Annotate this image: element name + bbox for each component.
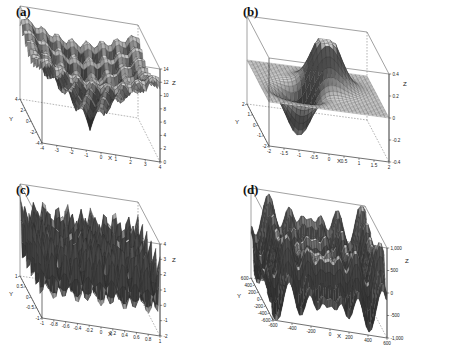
svg-text:-2: -2 (267, 149, 272, 154)
panel-d-label: (d) (243, 182, 258, 198)
svg-text:200: 200 (345, 335, 353, 340)
svg-text:1.5: 1.5 (371, 163, 378, 168)
svg-text:-0.2: -0.2 (392, 138, 400, 143)
svg-text:-1: -1 (84, 153, 89, 158)
svg-text:12: 12 (163, 80, 169, 85)
svg-text:400: 400 (244, 283, 252, 288)
svg-text:-1: -1 (35, 316, 40, 321)
svg-text:Y: Y (9, 115, 13, 122)
svg-text:Z: Z (405, 257, 409, 264)
svg-text:8: 8 (163, 107, 166, 112)
svg-text:1: 1 (163, 288, 166, 293)
svg-text:2: 2 (242, 102, 245, 107)
svg-text:0: 0 (100, 330, 103, 335)
svg-text:-4: -4 (35, 141, 40, 146)
svg-text:0: 0 (390, 291, 393, 296)
svg-text:2: 2 (388, 165, 391, 170)
svg-text:0.8: 0.8 (145, 337, 152, 342)
svg-text:X: X (108, 330, 112, 337)
svg-text:0: 0 (253, 123, 256, 128)
svg-text:-500: -500 (390, 313, 400, 318)
svg-text:0: 0 (257, 297, 260, 302)
svg-text:0: 0 (163, 160, 166, 165)
svg-text:-200: -200 (254, 304, 264, 309)
svg-text:0: 0 (329, 332, 332, 337)
svg-text:-0.5: -0.5 (26, 305, 34, 310)
svg-text:600: 600 (383, 341, 391, 346)
svg-text:-4: -4 (40, 146, 45, 151)
svg-text:1: 1 (159, 339, 162, 344)
svg-text:-0.4: -0.4 (73, 326, 81, 331)
svg-text:X: X (337, 157, 341, 164)
svg-text:-0.4: -0.4 (392, 160, 400, 165)
svg-text:1: 1 (358, 161, 361, 166)
svg-text:-400: -400 (258, 311, 268, 316)
svg-text:10: 10 (163, 93, 169, 98)
svg-text:X: X (108, 154, 112, 161)
svg-text:-600: -600 (261, 318, 271, 323)
svg-text:400: 400 (364, 338, 372, 343)
svg-text:-2: -2 (69, 150, 74, 155)
svg-text:0: 0 (163, 303, 166, 308)
svg-text:-3: -3 (55, 148, 60, 153)
svg-text:Z: Z (172, 79, 176, 86)
svg-text:3: 3 (163, 257, 166, 262)
svg-text:Y: Y (235, 118, 239, 125)
svg-text:-2: -2 (262, 144, 267, 149)
svg-text:-0.5: -0.5 (310, 155, 318, 160)
svg-text:4: 4 (159, 165, 162, 170)
svg-text:0.2: 0.2 (392, 94, 399, 99)
panel-d-plot: -600-400-2000200400600X-600-400-20002004… (227, 178, 453, 356)
panel-b-label: (b) (243, 4, 258, 20)
svg-text:0.5: 0.5 (17, 284, 24, 289)
svg-text:3: 3 (144, 162, 147, 167)
svg-text:0: 0 (26, 295, 29, 300)
svg-text:-400: -400 (287, 326, 297, 331)
svg-text:0: 0 (328, 157, 331, 162)
panel-c-plot: -1-0.8-0.6-0.4-0.200.20.40.60.81X-1-0.50… (0, 178, 226, 356)
svg-text:-1: -1 (297, 153, 302, 158)
svg-text:4: 4 (15, 97, 18, 102)
svg-text:1: 1 (15, 274, 18, 279)
svg-text:-1,000: -1,000 (390, 336, 403, 341)
panel-d: (d) -600-400-2000200400600X-600-400-2000… (227, 178, 453, 356)
svg-text:-600: -600 (268, 323, 278, 328)
panel-b: (b) -2-1.5-1-0.500.511.52X-2-1012Y-0.4-0… (227, 0, 453, 178)
svg-text:-1.5: -1.5 (280, 151, 288, 156)
svg-text:14: 14 (163, 67, 169, 72)
svg-text:0.4: 0.4 (392, 72, 399, 77)
svg-text:0.6: 0.6 (133, 335, 140, 340)
svg-text:0: 0 (100, 155, 103, 160)
panel-a: (a) -4-3-2-101234X-4-2024Y02468101214Z (0, 0, 226, 178)
svg-text:1: 1 (247, 112, 250, 117)
svg-text:1: 1 (114, 157, 117, 162)
svg-text:2: 2 (20, 108, 23, 113)
svg-text:Z: Z (403, 80, 407, 87)
svg-text:2: 2 (129, 160, 132, 165)
svg-text:X: X (337, 332, 341, 339)
svg-text:-2: -2 (163, 334, 168, 339)
svg-text:200: 200 (248, 290, 256, 295)
svg-text:-200: -200 (306, 329, 316, 334)
svg-text:0: 0 (392, 116, 395, 121)
svg-text:0.4: 0.4 (121, 333, 128, 338)
svg-text:4: 4 (163, 242, 166, 247)
svg-text:-1: -1 (40, 321, 45, 326)
panel-b-plot: -2-1.5-1-0.500.511.52X-2-1012Y-0.4-0.200… (227, 0, 453, 178)
svg-text:0.5: 0.5 (341, 159, 348, 164)
svg-text:0: 0 (26, 119, 29, 124)
panel-c: (c) -1-0.8-0.6-0.4-0.200.20.40.60.81X-1-… (0, 178, 226, 356)
svg-text:6: 6 (163, 120, 166, 125)
svg-text:-1: -1 (163, 318, 168, 323)
svg-text:1,000: 1,000 (390, 246, 402, 251)
svg-text:Z: Z (172, 256, 176, 263)
panel-c-label: (c) (16, 182, 30, 198)
svg-text:2: 2 (163, 146, 166, 151)
panel-a-plot: -4-3-2-101234X-4-2024Y02468101214Z (0, 0, 226, 178)
svg-text:4: 4 (163, 133, 166, 138)
svg-text:Y: Y (9, 290, 13, 297)
svg-text:-0.6: -0.6 (62, 324, 70, 329)
svg-text:2: 2 (163, 272, 166, 277)
panel-a-label: (a) (16, 4, 30, 20)
svg-text:-0.8: -0.8 (50, 322, 58, 327)
